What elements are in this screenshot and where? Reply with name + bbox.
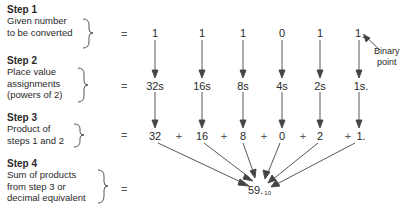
binary-digit-value: 1 — [355, 27, 361, 39]
plus-sign: + — [345, 130, 351, 142]
place-value: 8s — [237, 80, 249, 92]
binary-digit: 1 — [317, 27, 323, 39]
brace-step-2 — [78, 68, 88, 102]
place-value: 16s — [193, 80, 211, 92]
plus-sign: + — [176, 130, 182, 142]
place-value: 4s — [276, 80, 288, 92]
decimal-result: 59.10 — [248, 184, 271, 196]
base-2-subscript: 2 — [362, 33, 365, 39]
plus-sign: + — [221, 130, 227, 142]
binary-digit: 1 — [152, 27, 158, 39]
base-10-subscript: 10 — [264, 190, 271, 196]
binary-digit: 0 — [279, 27, 285, 39]
product-value: 1. — [356, 130, 365, 142]
place-value: 2s — [314, 80, 326, 92]
product-value: 2 — [317, 130, 323, 142]
brace-step-4 — [98, 170, 108, 203]
place-value: 32s — [146, 80, 164, 92]
decimal-result-value: 59. — [248, 184, 263, 196]
brace-step-1 — [83, 19, 93, 48]
binary-digit: 1 — [240, 27, 246, 39]
equals-step-3: = — [121, 129, 127, 141]
binary-point-label: Binary point — [374, 46, 400, 68]
equals-step-1: = — [121, 28, 127, 40]
plus-sign: + — [261, 130, 267, 142]
product-value: 8 — [240, 130, 246, 142]
binary-digit-last: 12 — [355, 27, 365, 39]
equals-step-4: = — [121, 183, 127, 195]
product-value: 0 — [279, 130, 285, 142]
plus-sign: + — [300, 130, 306, 142]
brace-step-3 — [74, 124, 84, 147]
equals-step-2: = — [121, 80, 127, 92]
place-value: 1s. — [354, 80, 369, 92]
binary-digit: 1 — [199, 27, 205, 39]
product-value: 16 — [196, 130, 208, 142]
product-value: 32 — [149, 130, 161, 142]
